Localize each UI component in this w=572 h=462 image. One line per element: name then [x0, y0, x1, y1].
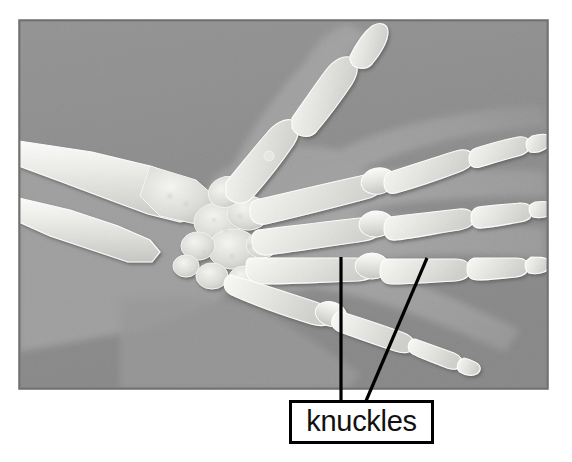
- figure-container: knuckles: [0, 0, 572, 462]
- hand-xray-illustration: [0, 0, 572, 462]
- knuckles-callout-box: knuckles: [289, 400, 434, 444]
- film-grain: [19, 20, 548, 389]
- xray-film: [19, 20, 553, 389]
- knuckles-label: knuckles: [306, 407, 416, 438]
